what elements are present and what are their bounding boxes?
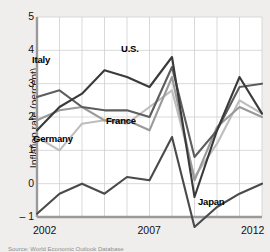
series-label-us: U.S. <box>121 43 139 54</box>
chart-figure: Inflation rate (percent) 543210– 1 20022… <box>0 0 270 252</box>
x-tick-label: 2012 <box>241 224 264 236</box>
x-tick-label: 2002 <box>33 224 56 236</box>
source-note: Source: World Economic Outlook Database <box>8 246 270 252</box>
series-label-germany: Germany <box>33 133 73 144</box>
x-tick-label: 2007 <box>138 224 161 236</box>
chart-plot-area <box>0 0 270 252</box>
series-label-japan: Japan <box>198 196 224 207</box>
series-label-italy: Italy <box>32 54 50 65</box>
series-label-france: France <box>106 115 136 126</box>
